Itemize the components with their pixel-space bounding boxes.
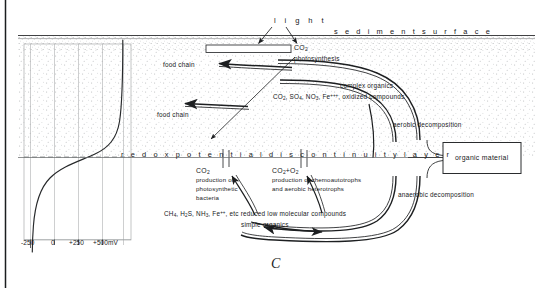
photic-box (206, 45, 291, 53)
figure-caption: C (271, 256, 280, 272)
organic-material-box (443, 143, 521, 174)
diagram-canvas (0, 0, 541, 288)
sediment-redox-diagram (0, 0, 541, 288)
